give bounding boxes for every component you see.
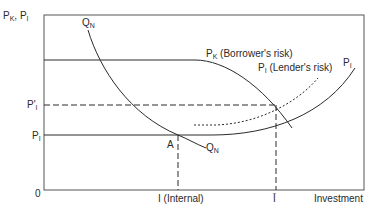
pk-label: PK (Borrower's risk) (206, 48, 293, 60)
pl-lender-curve (194, 78, 318, 125)
x-tick-i-bar: Ī (273, 193, 276, 204)
qn-bottom-label: QN (206, 142, 219, 154)
x-tick-i-internal: I (Internal) (158, 193, 204, 204)
qn-top-label: QN (82, 17, 95, 29)
point-a-label: A (167, 139, 174, 150)
x-axis-label: Investment (314, 193, 363, 204)
investment-risk-diagram: PK, PI 0 P'I PI I (Internal) Ī Investmen… (0, 0, 380, 217)
pl-label: PI (343, 57, 352, 69)
pl-lender-label: PI (Lender's risk) (258, 62, 332, 74)
y-tick-p-prime-l: P'I (27, 99, 38, 111)
origin-label: 0 (35, 188, 41, 199)
y-axis-label: PK, PI (3, 10, 29, 22)
qn-curve (88, 30, 206, 148)
y-tick-p-l: PI (32, 130, 41, 142)
